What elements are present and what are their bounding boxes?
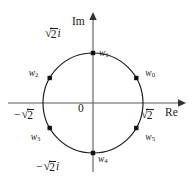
real-axis (8, 99, 186, 107)
imaginary-axis (89, 12, 96, 172)
root-label-subscript: 4 (104, 157, 107, 164)
root-marker-w1 (91, 51, 95, 55)
tick-label-negative-real: − √2 (14, 108, 34, 121)
root-marker-w3 (48, 126, 52, 130)
radicand-value: 2 (49, 161, 56, 174)
root-marker-w4 (91, 151, 95, 155)
figure-canvas (0, 0, 193, 180)
tick-label-negative-imaginary: − √2 i (36, 160, 59, 173)
root-label-subscript: 3 (37, 135, 40, 142)
complex-plane-figure: Im Re 0 √2 i − √2 i √2 − √2 w0w1w2w3w4w5 (0, 0, 193, 180)
root-label-w2: w2 (29, 69, 39, 79)
tick-label-positive-imaginary: √2 i (44, 27, 61, 40)
radicand-value: 2 (146, 109, 153, 122)
radicand-value: 2 (27, 109, 34, 122)
root-label-subscript: 1 (105, 51, 108, 58)
origin-label: 0 (78, 103, 84, 115)
root-label-w4: w4 (98, 155, 108, 165)
root-label-w0: w0 (145, 69, 155, 79)
imaginary-unit-suffix: i (56, 160, 59, 172)
root-label-w3: w3 (31, 133, 41, 143)
tick-label-positive-real: √2 (140, 108, 154, 121)
root-label-subscript: 0 (152, 71, 155, 78)
imaginary-unit-suffix: i (58, 27, 61, 39)
imaginary-axis-label: Im (72, 16, 85, 28)
root-label-w1: w1 (99, 49, 109, 59)
root-marker-w0 (134, 76, 138, 80)
root-label-subscript: 2 (35, 71, 38, 78)
radicand-value: 2 (50, 28, 57, 41)
root-label-w5: w5 (145, 133, 155, 143)
root-marker-w2 (48, 76, 52, 80)
real-axis-label: Re (165, 107, 178, 119)
root-marker-w5 (134, 126, 138, 130)
root-label-subscript: 5 (152, 135, 155, 142)
